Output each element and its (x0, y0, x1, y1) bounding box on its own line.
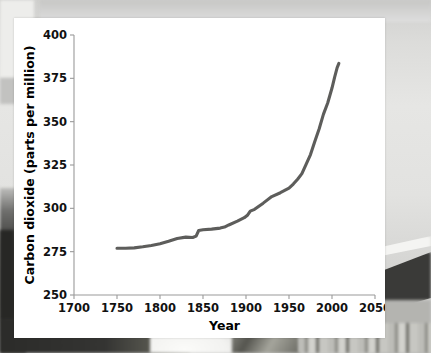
co2-series-line (117, 63, 339, 248)
y-tick-label: 325 (43, 158, 67, 172)
x-tick-label: 1750 (101, 301, 133, 315)
x-tick-label: 2050 (359, 301, 385, 315)
y-tick-label: 300 (43, 201, 67, 215)
x-axis-title: Year (208, 318, 241, 333)
co2-line-chart: 250275300325350375400 170017501800185019… (14, 18, 385, 338)
figure-card: 250275300325350375400 170017501800185019… (14, 18, 385, 338)
y-tick-label: 400 (43, 28, 67, 42)
y-axis-ticks: 250275300325350375400 (43, 28, 74, 302)
x-tick-label: 1850 (187, 301, 219, 315)
backdrop-left-dark-core (0, 230, 14, 320)
y-axis-title: Carbon dioxide (parts per million) (22, 46, 37, 285)
plot-area: 250275300325350375400 170017501800185019… (14, 18, 385, 338)
y-tick-label: 275 (43, 245, 67, 259)
y-tick-label: 250 (43, 288, 67, 302)
x-axis-ticks: 17001750180018501900195020002050 (58, 295, 385, 315)
x-tick-label: 1700 (58, 301, 90, 315)
x-tick-label: 2000 (316, 301, 348, 315)
y-tick-label: 350 (43, 115, 67, 129)
y-tick-label: 375 (43, 71, 67, 85)
x-tick-label: 1900 (230, 301, 262, 315)
x-tick-label: 1800 (144, 301, 176, 315)
x-tick-label: 1950 (273, 301, 305, 315)
